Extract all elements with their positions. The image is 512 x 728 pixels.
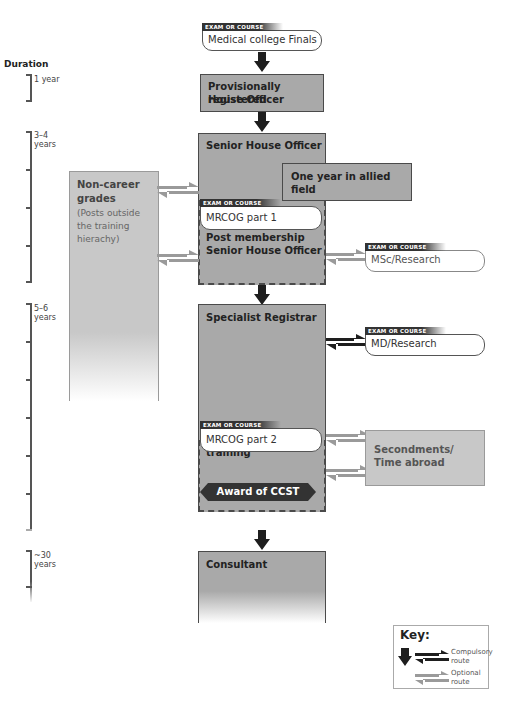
duration-label-30-years: ~30 years (34, 551, 56, 569)
optional-two-way-arrow (157, 250, 199, 266)
exam-medical-college-finals: EXAM OR COURSE Medical college Finals (202, 30, 322, 51)
compulsory-down-arrow (254, 52, 270, 72)
stage-prho: Provisionally registered House Officer (200, 74, 324, 112)
exam-tag: EXAM OR COURSE (200, 199, 281, 207)
exam-md-research: EXAM OR COURSE MD/Research (365, 334, 485, 356)
sho-dashed-edge (324, 200, 326, 285)
key-optional-line2: route (451, 678, 470, 686)
exam-label: MRCOG part 2 (206, 434, 277, 445)
key-compulsory-line2: route (451, 657, 470, 665)
duration-bracket-3-4-years (26, 131, 32, 283)
compulsory-down-arrow (254, 112, 270, 132)
exam-tag: EXAM OR COURSE (202, 23, 283, 31)
exam-msc-research: EXAM OR COURSE MSc/Research (365, 250, 485, 272)
duration-bracket-5-6-years (26, 303, 32, 531)
compulsory-down-arrow (254, 285, 270, 305)
optional-two-way-arrow (326, 249, 366, 265)
compulsory-down-arrow (254, 530, 270, 550)
exam-label: MSc/Research (371, 254, 441, 265)
stage-specialist-registrar: Specialist Registrar Subspecialty traini… (198, 304, 326, 512)
secondments-line2: Time abroad (374, 456, 445, 469)
stage-consultant: Consultant (198, 551, 326, 623)
stage-sho-title: Senior House Officer (206, 139, 322, 152)
non-career-sub3: hierachy) (77, 233, 119, 246)
exam-tag: EXAM OR COURSE (365, 327, 446, 335)
duration-label-3-4-years: 3–4 years (34, 131, 56, 149)
key-optional-route-icon (415, 671, 449, 685)
key-optional-line1: Optional (451, 669, 481, 677)
exam-mrcog-part-1: EXAM OR COURSE MRCOG part 1 (200, 206, 322, 230)
non-career-title1: Non-career (77, 178, 140, 191)
duration-title: Duration (4, 59, 48, 69)
side-non-career-grades: Non-career grades (Posts outside the tra… (69, 171, 159, 401)
non-career-title2: grades (77, 192, 116, 205)
duration-label-5-6-years: 5–6 years (34, 304, 56, 322)
optional-two-way-arrow (326, 465, 370, 481)
stage-allied-title: One year in allied field (291, 170, 411, 196)
duration-bracket-1-year (26, 74, 32, 102)
stage-post-membership-line1: Post membership (206, 231, 305, 244)
key-compulsory-route-icon (415, 650, 449, 664)
non-career-sub1: (Posts outside (77, 207, 140, 220)
stage-prho-line2: House Officer (208, 93, 284, 106)
stage-post-membership-line2: Senior House Officer (206, 244, 322, 257)
key-title: Key: (400, 628, 430, 642)
optional-two-way-arrow (326, 430, 370, 446)
compulsory-two-way-arrow (326, 334, 366, 350)
spr-dashed-edge (198, 440, 200, 512)
stage-allied-field: One year in allied field (282, 163, 412, 201)
award-of-ccst: Award of CCST (200, 483, 316, 501)
award-of-ccst-label: Award of CCST (200, 483, 316, 501)
non-career-sub2: the training (77, 220, 130, 233)
exam-label: MD/Research (371, 338, 437, 349)
key-compulsory-line1: Compulsory (451, 648, 493, 656)
exam-label: MRCOG part 1 (206, 212, 277, 223)
exam-mrcog-part-2: EXAM OR COURSE MRCOG part 2 (200, 428, 322, 452)
exam-tag: EXAM OR COURSE (365, 243, 446, 251)
stage-spr-title: Specialist Registrar (206, 311, 317, 324)
duration-label-1-year: 1 year (34, 75, 59, 84)
optional-two-way-arrow (157, 182, 199, 198)
exam-label: Medical college Finals (208, 34, 317, 45)
exam-tag: EXAM OR COURSE (200, 421, 281, 429)
legend-key: Key: Compulsory route Optional route (393, 625, 489, 689)
secondments-line1: Secondments/ (374, 443, 454, 456)
stage-consultant-title: Consultant (206, 558, 267, 571)
duration-bracket-30-years (26, 550, 32, 602)
side-secondments: Secondments/ Time abroad (365, 430, 485, 486)
key-compulsory-down-arrow-icon (398, 648, 412, 666)
